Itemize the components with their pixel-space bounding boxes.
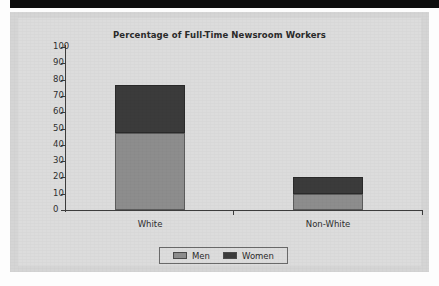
- x-axis-line: [65, 210, 423, 211]
- legend-item-men: Men: [173, 251, 210, 261]
- page-top-black-band: [10, 0, 439, 8]
- bar-segment-women: [115, 85, 185, 134]
- chart-panel: Percentage of Full-Time Newsroom Workers…: [10, 12, 429, 272]
- chart-screenshot: Percentage of Full-Time Newsroom Workers…: [0, 0, 439, 286]
- bar-white: [115, 85, 185, 211]
- bar-segment-men: [115, 133, 185, 210]
- bar-non-white: [293, 177, 363, 210]
- legend-label-women: Women: [242, 251, 274, 261]
- chart-legend: Men Women: [159, 247, 288, 264]
- bar-segment-men: [293, 194, 363, 210]
- x-axis-end-tick: [422, 210, 423, 215]
- x-axis-label-white: White: [138, 219, 163, 229]
- x-axis-label-non-white: Non-White: [306, 219, 350, 229]
- chart-title: Percentage of Full-Time Newsroom Workers: [18, 30, 421, 40]
- legend-label-men: Men: [192, 251, 210, 261]
- legend-swatch-men: [173, 252, 187, 259]
- legend-item-women: Women: [223, 251, 274, 261]
- plot-area: 1009080706050403020100 WhiteNon-White: [65, 47, 421, 210]
- x-tick-mark: [233, 210, 234, 215]
- y-tick-mark: [61, 210, 66, 211]
- chart-plot-plate: Percentage of Full-Time Newsroom Workers…: [18, 18, 421, 266]
- legend-swatch-women: [223, 252, 237, 259]
- bar-segment-women: [293, 177, 363, 193]
